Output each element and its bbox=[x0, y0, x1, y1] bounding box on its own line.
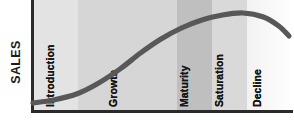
stage-label-text-introduction: Introduction bbox=[44, 45, 56, 107]
stage-label-text-saturation: Saturation bbox=[213, 54, 225, 107]
stage-label-text-decline: Decline bbox=[251, 69, 263, 107]
x-axis-line bbox=[31, 110, 293, 113]
stage-label-decline: Decline bbox=[263, 95, 294, 107]
product-life-cycle-chart: SALES IntroductionGrowthMaturitySaturati… bbox=[0, 0, 294, 123]
stage-label-growth: Growth bbox=[119, 95, 156, 107]
plot-area: IntroductionGrowthMaturitySaturationDecl… bbox=[33, 0, 294, 111]
stage-label-text-growth: Growth bbox=[107, 70, 119, 107]
stage-label-text-maturity: Maturity bbox=[178, 65, 190, 107]
y-axis-label-text: SALES bbox=[9, 40, 23, 84]
y-axis-title: SALES bbox=[0, 0, 32, 123]
y-axis-line bbox=[31, 0, 34, 112]
